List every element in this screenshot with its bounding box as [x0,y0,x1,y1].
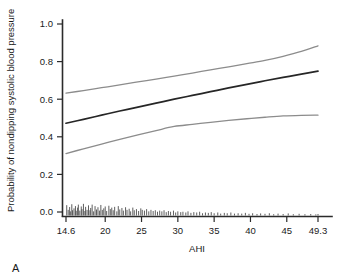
probability-vs-ahi-chart: Probability of nondipping systolic blood… [0,0,356,280]
x-tick-label: 20 [100,225,111,236]
x-axis-ticks: 14.620253035404549.3 [57,217,328,237]
x-tick-label: 35 [209,225,220,236]
x-tick-label: 45 [281,225,292,236]
fitted-probability-curve [66,71,318,123]
y-axis-title: Probability of nondipping systolic blood… [5,9,16,212]
upper-confidence-curve [66,46,318,93]
rug-plot [67,204,318,216]
y-tick-label: 1.0 [40,18,53,29]
y-tick-label: 0.0 [40,206,53,217]
x-tick-label: 14.6 [57,225,76,236]
figure-panel-a: Probability of nondipping systolic blood… [0,0,356,280]
x-tick-label: 40 [245,225,256,236]
y-tick-label: 0.6 [40,94,53,105]
y-axis-ticks: 0.00.20.40.60.81.0 [40,18,63,217]
fitted-curves [66,46,318,154]
x-axis-title: AHI [189,243,205,254]
y-tick-label: 0.8 [40,56,53,67]
y-tick-label: 0.2 [40,169,53,180]
x-tick-label: 25 [136,225,147,236]
y-tick-label: 0.4 [40,131,53,142]
x-tick-label: 49.3 [309,225,328,236]
lower-confidence-curve [66,115,318,153]
panel-label: A [12,258,19,276]
panel-label-text: A [12,262,19,274]
x-tick-label: 30 [173,225,184,236]
